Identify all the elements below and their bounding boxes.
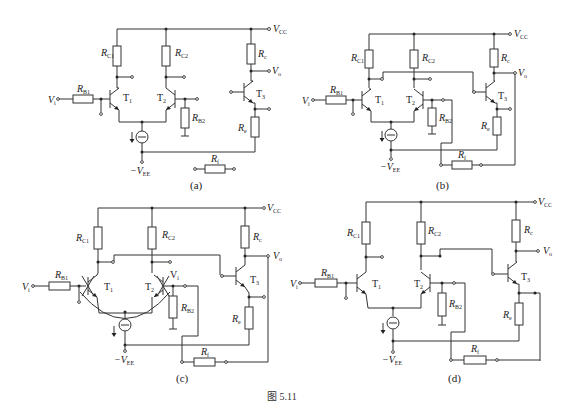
resistor-rb2-d (438, 293, 446, 316)
rb2-label-c: RB2 (180, 302, 194, 314)
transistor-t3-b (486, 81, 495, 103)
transistor-t3-a (244, 81, 253, 103)
transistor-t2-b (414, 89, 423, 111)
transistor-t1-b (362, 89, 371, 111)
caption-d: (d) (448, 372, 461, 385)
panel-d: VCC RC1 RC2 Vi RB1 T1 (290, 196, 552, 385)
t3-label-d: T3 (521, 271, 530, 283)
t2-label-c: T2 (145, 281, 154, 293)
rf-label-b: Rf (457, 149, 466, 161)
caption-b: (b) (436, 179, 449, 192)
transistor-t3-d (508, 262, 517, 284)
resistor-rc-a (247, 44, 255, 64)
resistor-rc2-a (162, 46, 170, 66)
t3-label-c: T3 (250, 274, 259, 286)
vee-label-c: −VEE (114, 354, 135, 366)
resistor-re-a (251, 117, 259, 137)
caption-c: (c) (176, 372, 189, 385)
resistor-rb2-a (181, 108, 189, 128)
vo-label-c: Vo (273, 250, 282, 262)
re-label-a: Re (237, 122, 247, 134)
arrow-down-icon (112, 326, 117, 337)
vcc-label-b: VCC (514, 28, 528, 40)
re-label-b: Re (480, 120, 490, 132)
rc1-label-d: RC1 (346, 227, 360, 239)
vcc-label-d: VCC (538, 196, 552, 208)
rc-label-d: Rc (523, 224, 533, 236)
rc2-label-a: RC2 (174, 47, 188, 59)
resistor-rc1-a (113, 46, 121, 66)
vee-label-a: −VEE (130, 165, 151, 177)
vee-label-d: −VEE (382, 354, 403, 366)
resistor-rc1-b (365, 50, 373, 68)
t1-label-d: T1 (372, 278, 381, 290)
rb2-label-b: RB2 (438, 112, 452, 124)
t3-label-a: T3 (256, 88, 265, 100)
vi-label-a: Vi (48, 94, 56, 106)
resistor-rc-d (512, 220, 520, 242)
rb1-label-b: RB1 (329, 84, 343, 96)
vo-label-a: Vo (272, 65, 281, 77)
resistor-re-d (515, 303, 523, 325)
resistor-rb1-b (326, 96, 346, 104)
transistor-t3-c (236, 265, 245, 287)
figure-caption: 图 5.11 (267, 391, 297, 402)
rc2-label-b: RC2 (421, 52, 435, 64)
resistor-rc2-c (148, 227, 156, 249)
arrow-down-icon (380, 131, 385, 142)
rb1-label-a: RB1 (76, 83, 90, 95)
rb1-label-c: RB1 (54, 269, 68, 281)
rc-label-c: Rc (252, 231, 262, 243)
resistor-rb2-b (428, 108, 436, 126)
vcc-label-a: VCC (273, 23, 287, 35)
arrow-down-icon (381, 323, 386, 334)
vi-label-b: Vi (302, 95, 310, 107)
transistor-t1-d (357, 272, 366, 294)
transistor-t1-a (110, 88, 119, 110)
resistor-rc1-d (362, 222, 370, 244)
t2-label-b: T2 (406, 94, 415, 106)
vcc-label-c: VCC (267, 202, 281, 214)
panel-c: VCC RC1 RC2 Vi RB1 (22, 202, 282, 385)
t2-label-a: T2 (157, 92, 166, 104)
rf-label-c: Rf (200, 346, 209, 358)
resistor-rb1-a (73, 95, 93, 103)
resistor-re-c (245, 307, 253, 329)
re-label-c: Re (231, 313, 241, 325)
rb2-label-d: RB2 (448, 298, 462, 310)
arrow-down-icon (130, 132, 135, 143)
vee-label-b: −VEE (380, 161, 401, 173)
resistor-rf-b (452, 161, 472, 169)
resistor-rb2-c (169, 296, 177, 318)
current-source-a (136, 131, 148, 143)
rc1-label-c: RC1 (75, 232, 89, 244)
rf-label-d: Rf (470, 343, 479, 355)
resistor-rb1-c (49, 282, 70, 290)
vo-label-b: Vo (518, 67, 527, 79)
vi-label-d: Vi (290, 278, 298, 290)
rb2-label-a: RB2 (191, 112, 205, 124)
current-source-b (385, 129, 397, 141)
transistor-t2-d (421, 272, 430, 294)
panel-a: VCC RC1 RC2 Vi RB1 T1 T2 (48, 23, 287, 192)
resistor-rc2-b (410, 50, 418, 68)
t1-label-a: T1 (123, 92, 132, 104)
resistor-rc-c (241, 226, 249, 248)
rc1-label-b: RC1 (350, 52, 364, 64)
vi-node-label-c: Vi (170, 269, 179, 281)
vi-label-c: Vi (22, 281, 30, 293)
resistor-rc-b (490, 49, 498, 67)
current-source-c (119, 319, 131, 331)
panel-b: VCC RC1 RC2 Vi RB1 T1 (302, 28, 528, 192)
resistor-re-b (493, 117, 501, 135)
t2-label-d: T2 (414, 278, 423, 290)
resistor-rc2-d (417, 222, 425, 244)
current-source-d (387, 317, 399, 329)
vo-label-d: Vo (543, 245, 552, 257)
rc-label-b: Rc (500, 52, 510, 64)
resistor-rf-a (205, 165, 225, 173)
rf-label-a: Rf (210, 153, 219, 165)
resistor-rb1-d (315, 279, 337, 287)
rc1-label-a: RC1 (100, 47, 114, 59)
transistor-t2-a (166, 88, 175, 110)
